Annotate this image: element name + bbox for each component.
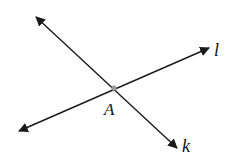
point-a-dot (111, 85, 116, 90)
line-l-label: l (214, 40, 219, 60)
point-a-label: A (103, 100, 115, 119)
line-k (36, 17, 177, 148)
intersecting-lines-diagram: A l k (0, 0, 239, 159)
line-k-label: k (182, 136, 191, 156)
